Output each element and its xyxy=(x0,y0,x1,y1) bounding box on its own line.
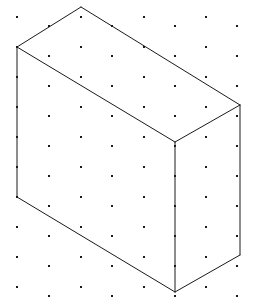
grid-dot xyxy=(205,16,207,18)
grid-dot xyxy=(48,295,50,297)
grid-dot xyxy=(174,295,176,297)
grid-dot xyxy=(111,235,113,237)
grid-dot xyxy=(48,265,50,267)
grid-dot xyxy=(48,115,50,117)
grid-dot xyxy=(48,85,50,87)
grid-dot xyxy=(143,106,145,108)
grid-dot xyxy=(16,256,18,258)
grid-dot xyxy=(143,286,145,288)
grid-dot xyxy=(80,166,82,168)
grid-dot xyxy=(143,196,145,198)
grid-dot xyxy=(48,235,50,237)
grid-dot xyxy=(236,175,238,177)
grid-dot xyxy=(111,265,113,267)
grid-dot xyxy=(80,16,82,18)
grid-dot xyxy=(111,85,113,87)
isometric-drawing-svg xyxy=(0,0,253,308)
grid-dot xyxy=(143,166,145,168)
grid-dot xyxy=(236,145,238,147)
grid-dot xyxy=(205,136,207,138)
grid-dot xyxy=(205,196,207,198)
grid-dot xyxy=(174,55,176,57)
grid-dot xyxy=(143,16,145,18)
grid-dot xyxy=(236,85,238,87)
grid-dot xyxy=(236,55,238,57)
grid-dot xyxy=(48,55,50,57)
grid-dot xyxy=(111,55,113,57)
grid-dot xyxy=(80,256,82,258)
grid-dot xyxy=(236,235,238,237)
grid-dot xyxy=(111,145,113,147)
grid-dot xyxy=(80,46,82,48)
grid-dot xyxy=(205,286,207,288)
grid-dot xyxy=(80,226,82,228)
grid-dot xyxy=(111,295,113,297)
grid-dot xyxy=(16,286,18,288)
grid-dot xyxy=(205,106,207,108)
grid-dot xyxy=(236,205,238,207)
grid-dot xyxy=(111,205,113,207)
grid-dot xyxy=(205,46,207,48)
grid-dot xyxy=(236,25,238,27)
grid-dot xyxy=(236,295,238,297)
grid-dot xyxy=(143,226,145,228)
grid-dot xyxy=(48,175,50,177)
grid-dot xyxy=(48,205,50,207)
grid-dot xyxy=(236,115,238,117)
grid-dot xyxy=(80,106,82,108)
grid-dot xyxy=(174,25,176,27)
grid-dot xyxy=(111,175,113,177)
grid-dot xyxy=(236,265,238,267)
grid-dot xyxy=(111,115,113,117)
grid-dot xyxy=(80,76,82,78)
grid-dot xyxy=(143,76,145,78)
grid-dot xyxy=(16,226,18,228)
grid-dot xyxy=(205,226,207,228)
grid-dot xyxy=(143,136,145,138)
grid-dot xyxy=(80,136,82,138)
grid-dot xyxy=(80,196,82,198)
grid-dot xyxy=(205,166,207,168)
grid-dot xyxy=(174,85,176,87)
grid-dot xyxy=(48,145,50,147)
grid-dot xyxy=(205,76,207,78)
grid-dot xyxy=(80,286,82,288)
grid-dot xyxy=(174,115,176,117)
isometric-figure-canvas xyxy=(0,0,253,308)
grid-dot xyxy=(205,256,207,258)
grid-dot xyxy=(16,16,18,18)
grid-dot xyxy=(143,256,145,258)
